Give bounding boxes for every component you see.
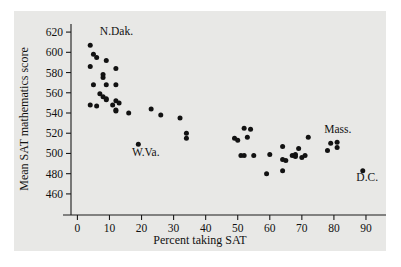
y-tick-label-500: 500 <box>46 147 64 159</box>
y-tick-label-460: 460 <box>46 188 64 200</box>
data-point <box>264 171 269 176</box>
data-point <box>158 113 163 118</box>
scatter-plot: 460480500520540560580600620 010203040506… <box>14 11 386 251</box>
data-point <box>293 154 298 159</box>
y-tick-label-600: 600 <box>46 46 64 58</box>
data-point <box>104 58 109 63</box>
data-point <box>280 144 285 149</box>
data-point <box>104 82 109 87</box>
x-tick-label-90: 90 <box>360 222 372 234</box>
annotation-label: Mass. <box>324 123 351 135</box>
chart-panel: 460480500520540560580600620 010203040506… <box>14 11 386 251</box>
data-point <box>126 111 131 116</box>
data-point <box>91 82 96 87</box>
data-point <box>178 116 183 121</box>
data-point <box>335 140 340 145</box>
data-point <box>325 148 330 153</box>
data-point <box>248 127 253 132</box>
data-point <box>328 141 333 146</box>
data-point <box>184 136 189 141</box>
point-annotations: N.Dak.W.Va.Mass.D.C. <box>100 25 378 183</box>
data-point <box>117 100 122 105</box>
data-point <box>94 103 99 108</box>
data-point <box>113 66 118 71</box>
data-point <box>113 82 118 87</box>
y-axis: 460480500520540560580600620 <box>46 24 71 215</box>
data-point <box>242 153 247 158</box>
y-tick-label-560: 560 <box>46 87 64 99</box>
y-tick-label-580: 580 <box>46 67 64 79</box>
data-point <box>306 135 311 140</box>
annotation-label: D.C. <box>356 171 378 183</box>
x-tick-label-70: 70 <box>296 222 308 234</box>
x-axis-title: Percent taking SAT <box>153 233 247 247</box>
y-tick-label-620: 620 <box>46 26 64 38</box>
data-point <box>94 55 99 60</box>
data-point <box>88 43 93 48</box>
data-points <box>88 43 366 176</box>
x-tick-label-80: 80 <box>328 222 340 234</box>
x-axis: 0102030405060708090 <box>63 215 386 234</box>
y-axis-title: Mean SAT mathematics score <box>17 47 31 190</box>
data-point <box>149 106 154 111</box>
annotation-label: W.Va. <box>132 146 160 158</box>
x-tick-label-10: 10 <box>104 222 116 234</box>
data-point <box>88 102 93 107</box>
data-point <box>110 102 115 107</box>
x-tick-label-0: 0 <box>75 222 81 234</box>
data-point <box>303 153 308 158</box>
data-point <box>184 131 189 136</box>
data-point <box>101 75 106 80</box>
data-point <box>88 64 93 69</box>
data-point <box>283 158 288 163</box>
data-point <box>242 126 247 131</box>
data-point <box>104 97 109 102</box>
data-point <box>335 145 340 150</box>
x-tick-label-20: 20 <box>136 222 148 234</box>
annotation-label: N.Dak. <box>100 25 133 37</box>
x-tick-label-60: 60 <box>264 222 276 234</box>
data-point <box>113 108 118 113</box>
y-tick-label-480: 480 <box>46 168 64 180</box>
data-point <box>296 146 301 151</box>
y-tick-label-520: 520 <box>46 127 64 139</box>
data-point <box>280 168 285 173</box>
chart-page: 460480500520540560580600620 010203040506… <box>0 0 401 267</box>
y-tick-label-540: 540 <box>46 107 64 119</box>
data-point <box>251 153 256 158</box>
data-point <box>267 152 272 157</box>
data-point <box>245 135 250 140</box>
data-point <box>235 138 240 143</box>
